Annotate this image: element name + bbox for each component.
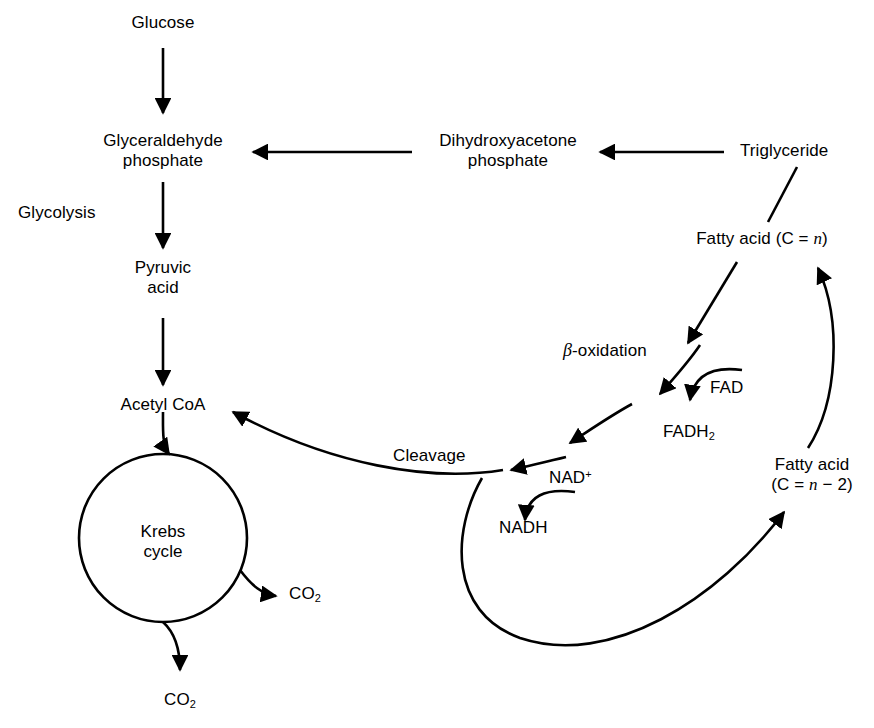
node-label-glyceraldehyde-phosphate-line1: Glyceraldehyde: [103, 131, 223, 151]
arrow-nadplus-to-nadh: [525, 491, 575, 520]
metabolic-pathway-diagram: Glucose Glyceraldehyde phosphate Glycoly…: [0, 0, 874, 728]
pathway-label-cleavage: Cleavage: [393, 446, 466, 466]
node-label-pyruvic-acid-line1: Pyruvic: [135, 258, 191, 278]
node-label-triglyceride: Triglyceride: [740, 141, 828, 161]
fatty-acid-n2-open: (C =: [771, 475, 809, 494]
arrow-cleavage-to-fatty-acid-n2: [462, 478, 784, 645]
arrow-beta-oxidation-step2: [570, 404, 632, 443]
co2-bottom-text: CO: [164, 690, 190, 709]
fatty-acid-n-prefix: Fatty acid (C =: [696, 229, 813, 248]
pathway-label-glycolysis: Glycolysis: [18, 203, 96, 223]
node-label-dihydroxyacetone-phosphate-line1: Dihydroxyacetone: [439, 131, 577, 151]
co2-right-text: CO: [289, 584, 315, 603]
fadh2-subscript: 2: [709, 430, 715, 442]
fatty-acid-n-variable: n: [813, 229, 822, 248]
beta-oxidation-rest: -oxidation: [572, 341, 647, 360]
node-label-glyceraldehyde-phosphate-line2: phosphate: [123, 151, 203, 171]
nad-text: NAD: [549, 468, 585, 487]
node-label-fad: FAD: [710, 378, 743, 398]
connector-triglyceride-to-fatty-acid-n: [768, 167, 797, 222]
co2-right-subscript: 2: [315, 592, 321, 604]
node-label-nadh: NADH: [499, 518, 548, 538]
nad-plus-superscript: +: [585, 468, 592, 480]
node-label-krebs-cycle-line1: Krebs: [141, 522, 186, 542]
pathway-arrows-layer: [0, 0, 874, 728]
pathway-label-beta-oxidation: β-oxidation: [563, 340, 647, 361]
node-label-fatty-acid-n: Fatty acid (C = n): [696, 229, 828, 249]
node-label-acetyl-coa: Acetyl CoA: [120, 395, 205, 415]
node-label-co2-right: CO2: [289, 584, 321, 608]
node-label-co2-bottom: CO2: [164, 690, 196, 714]
arrow-fatty-acid-n-to-beta-oxidation: [688, 262, 737, 343]
node-label-nad-plus: NAD+: [549, 464, 592, 488]
arrow-krebs-to-co2-bottom: [163, 622, 180, 670]
node-label-glucose: Glucose: [131, 13, 194, 33]
fadh2-text: FADH: [663, 422, 709, 441]
fatty-acid-n-suffix: ): [822, 229, 828, 248]
arrow-fatty-acid-n2-to-fatty-acid-n: [808, 268, 834, 448]
node-label-dihydroxyacetone-phosphate-line2: phosphate: [468, 151, 548, 171]
node-label-fatty-acid-n2-line1: Fatty acid: [775, 455, 850, 475]
arrow-krebs-to-co2-right: [240, 570, 276, 596]
co2-bottom-subscript: 2: [190, 698, 196, 710]
fatty-acid-n2-close: − 2): [818, 475, 853, 494]
node-label-krebs-cycle-line2: cycle: [143, 542, 182, 562]
arrow-acetyl-coa-to-krebs: [163, 412, 169, 454]
beta-symbol: β: [563, 340, 572, 360]
node-label-fatty-acid-n2-line2: (C = n − 2): [771, 475, 852, 495]
node-label-fadh2: FADH2: [663, 422, 715, 446]
node-label-pyruvic-acid-line2: acid: [147, 278, 179, 298]
